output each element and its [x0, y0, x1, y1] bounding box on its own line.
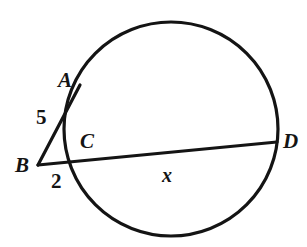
length-label-ba: 5 [36, 107, 47, 128]
length-label-cd: x [162, 165, 172, 185]
point-label-b: B [15, 155, 29, 176]
secant-line-bd [38, 142, 277, 165]
circle-shape [64, 22, 278, 236]
point-label-d: D [283, 131, 298, 152]
length-label-bc: 2 [51, 171, 62, 192]
point-label-c: C [80, 131, 94, 152]
geometry-figure: A B C D 5 2 x [0, 0, 307, 247]
point-label-a: A [58, 70, 72, 91]
